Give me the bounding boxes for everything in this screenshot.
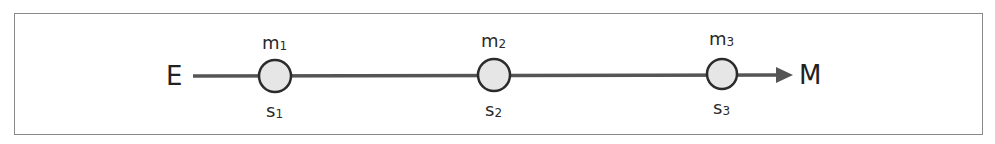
node-3: m3 s3 — [707, 28, 737, 118]
node-1-circle — [259, 60, 291, 92]
node-2-state-label: s2 — [485, 99, 502, 120]
arrow-head-icon — [776, 67, 793, 83]
node-2-circle — [478, 59, 510, 91]
node-1: m1 s1 — [259, 32, 291, 121]
chain-diagram: E M m1 s1 m2 s2 m3 s3 — [0, 0, 995, 144]
end-label: M — [799, 60, 821, 90]
node-2: m2 s2 — [478, 30, 510, 120]
node-3-mass-label: m3 — [709, 28, 734, 49]
node-3-circle — [707, 59, 737, 89]
node-3-state-label: s3 — [713, 97, 730, 118]
node-2-mass-label: m2 — [481, 30, 506, 51]
node-1-state-label: s1 — [266, 100, 283, 121]
node-1-mass-label: m1 — [262, 32, 287, 53]
start-label: E — [166, 61, 182, 91]
